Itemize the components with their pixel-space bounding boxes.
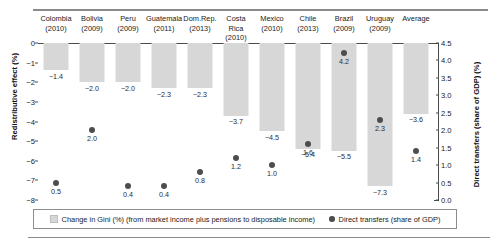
- bar: [260, 43, 285, 131]
- chart-category-group: −7.32.3: [362, 43, 398, 200]
- category-labels: Colombia(2010)Bolivia(2009)Peru(2009)Gua…: [38, 14, 434, 42]
- category-name: Uruguay: [362, 14, 398, 24]
- category-year: (2010): [38, 24, 74, 34]
- category-label: Dom.Rep.(2013): [182, 14, 218, 33]
- category-label: Peru(2009): [110, 14, 146, 33]
- right-tick-label: 1.0: [441, 161, 452, 170]
- data-point-dot: [197, 169, 203, 175]
- right-axis-ticks: 4.54.03.53.02.52.01.51.00.50.0: [441, 0, 471, 243]
- category-year: (2009): [110, 24, 146, 34]
- left-tick-label: −4: [26, 117, 35, 126]
- chart-category-group: −1.40.5: [38, 43, 74, 200]
- right-tick-label: 3.5: [441, 73, 452, 82]
- plot-area: −1.40.5−2.02.0−2.00.4−2.30.4−2.30.8−3.71…: [38, 43, 434, 200]
- bar-value-label: −2.3: [193, 90, 207, 99]
- chart-category-group: −3.61.4: [398, 43, 434, 200]
- bar-swatch-icon: [50, 215, 58, 223]
- dot-value-label: 4.2: [339, 57, 349, 66]
- dot-value-label: 1.6: [303, 148, 313, 157]
- category-year: (2011): [146, 24, 182, 34]
- category-label: Costa Rica(2010): [218, 14, 254, 43]
- category-name: Costa Rica: [218, 14, 254, 33]
- chart-category-group: −2.02.0: [74, 43, 110, 200]
- chart-legend: Change in Gini (%) (from market income p…: [33, 209, 457, 229]
- category-label: Chile(2013): [290, 14, 326, 33]
- category-year: (2009): [74, 24, 110, 34]
- category-label: Uruguay(2009): [362, 14, 398, 33]
- category-year: (2009): [326, 24, 362, 34]
- bar: [80, 43, 105, 82]
- data-point-dot: [341, 50, 347, 56]
- right-tick-label: 1.5: [441, 143, 452, 152]
- bar: [188, 43, 213, 88]
- right-tick-mark: [436, 95, 439, 96]
- category-name: Average: [398, 14, 434, 24]
- data-point-dot: [53, 180, 59, 186]
- right-tick-mark: [436, 60, 439, 61]
- bar: [116, 43, 141, 82]
- left-tick-label: −7: [26, 176, 35, 185]
- category-year: (2013): [182, 24, 218, 34]
- left-tick-label: −1: [26, 58, 35, 67]
- top-rule: [33, 9, 488, 11]
- bar-value-label: −1.4: [49, 72, 63, 81]
- right-axis-spine: [438, 43, 439, 200]
- category-year: (2010): [218, 33, 254, 43]
- category-name: Brazil: [326, 14, 362, 24]
- category-label: Mexico(2010): [254, 14, 290, 33]
- chart-category-group: −2.30.8: [182, 43, 218, 200]
- bar-value-label: −3.7: [229, 117, 243, 126]
- category-label: Colombia(2010): [38, 14, 74, 33]
- legend-label-gini: Change in Gini (%) (from market income p…: [62, 215, 315, 224]
- dot-value-label: 0.4: [123, 190, 133, 199]
- chart-category-group: −5.41.6: [290, 43, 326, 200]
- chart-category-group: −2.00.4: [110, 43, 146, 200]
- right-tick-mark: [436, 147, 439, 148]
- data-point-dot: [377, 117, 383, 123]
- data-point-dot: [125, 183, 131, 189]
- right-tick-mark: [436, 182, 439, 183]
- right-tick-label: 2.0: [441, 126, 452, 135]
- category-label: Guatemala(2011): [146, 14, 182, 33]
- bar: [296, 43, 321, 149]
- bar: [368, 43, 393, 186]
- chart-figure: Redistributive effect (%) Direct transfe…: [0, 0, 494, 243]
- category-label: Brazil(2009): [326, 14, 362, 33]
- chart-category-group: −2.30.4: [146, 43, 182, 200]
- left-tick-label: −3: [26, 97, 35, 106]
- right-tick-mark: [436, 130, 439, 131]
- dot-value-label: 0.5: [51, 187, 61, 196]
- right-tick-mark: [436, 43, 439, 44]
- bar-value-label: −2.0: [85, 84, 99, 93]
- dot-value-label: 2.0: [87, 134, 97, 143]
- category-year: (2013): [290, 24, 326, 34]
- left-tick-label: −2: [26, 78, 35, 87]
- chart-category-group: −3.71.2: [218, 43, 254, 200]
- category-name: Colombia: [38, 14, 74, 24]
- bar-value-label: −2.0: [121, 84, 135, 93]
- bar: [152, 43, 177, 88]
- category-year: (2009): [362, 24, 398, 34]
- right-tick-label: 3.0: [441, 91, 452, 100]
- category-year: (2010): [254, 24, 290, 34]
- right-tick-mark: [436, 112, 439, 113]
- right-axis-title: Direct transfers (share of GDP) (%): [472, 55, 481, 195]
- legend-label-transfers: Direct transfers (share of GDP): [339, 215, 441, 224]
- data-point-dot: [161, 183, 167, 189]
- bar: [224, 43, 249, 116]
- dot-value-label: 1.2: [231, 162, 241, 171]
- data-point-dot: [269, 162, 275, 168]
- bar-value-label: −4.5: [265, 133, 279, 142]
- dot-swatch-icon: [329, 216, 335, 222]
- category-label: Average: [398, 14, 434, 24]
- category-name: Bolivia: [74, 14, 110, 24]
- bar: [44, 43, 69, 70]
- right-tick-label: 2.5: [441, 108, 452, 117]
- dot-value-label: 2.3: [375, 124, 385, 133]
- bar-value-label: −2.3: [157, 90, 171, 99]
- bar-series: −1.40.5−2.02.0−2.00.4−2.30.4−2.30.8−3.71…: [38, 43, 434, 200]
- bar-value-label: −5.5: [337, 152, 351, 161]
- left-tick-label: −8: [26, 196, 35, 205]
- category-name: Peru: [110, 14, 146, 24]
- legend-item-gini: Change in Gini (%) (from market income p…: [50, 215, 315, 224]
